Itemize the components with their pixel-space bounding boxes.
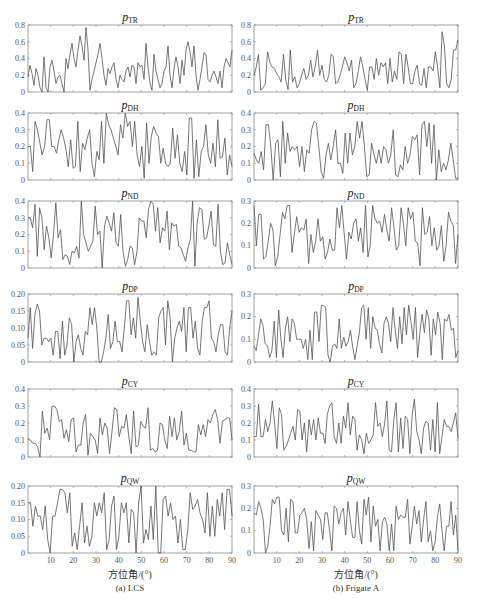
chart-panel-a-6: pQW00.050.100.150.20102030405060708090 bbox=[11, 471, 236, 565]
data-line bbox=[28, 486, 232, 553]
y-tick-label: 0 bbox=[247, 88, 251, 97]
x-tick-label: 90 bbox=[454, 556, 462, 565]
y-tick-label: 0.4 bbox=[241, 54, 251, 63]
plot-frame bbox=[254, 389, 458, 457]
x-tick-label: 30 bbox=[92, 556, 100, 565]
plot-frame bbox=[254, 201, 458, 268]
y-tick-label: 0.05 bbox=[11, 532, 25, 541]
x-tick-label: 60 bbox=[160, 556, 168, 565]
y-tick-label: 0.2 bbox=[241, 71, 251, 80]
data-line bbox=[254, 206, 458, 266]
y-tick-label: 0 bbox=[21, 358, 25, 367]
panel-title: pND bbox=[347, 186, 365, 201]
x-tick-label: 70 bbox=[183, 556, 191, 565]
y-tick-label: 0.4 bbox=[15, 54, 25, 63]
subfigure-caption: (a) LCS bbox=[116, 583, 145, 593]
y-tick-label: 0 bbox=[21, 453, 25, 462]
x-tick-label: 50 bbox=[363, 556, 371, 565]
chart-panel-a-4: pDP00.050.100.150.20 bbox=[11, 279, 232, 367]
y-tick-label: 0 bbox=[247, 453, 251, 462]
chart-panel-b-4: pDP00.10.20.3 bbox=[241, 279, 458, 367]
chart-panel-b-3: pND00.10.20.3 bbox=[241, 186, 458, 273]
plot-frame bbox=[28, 201, 232, 268]
panel-title: pTR bbox=[347, 10, 364, 25]
y-tick-label: 0.2 bbox=[241, 312, 251, 321]
x-axis-label: 方位角/(°) bbox=[108, 568, 151, 581]
y-tick-label: 0.1 bbox=[15, 247, 25, 256]
data-line bbox=[28, 28, 232, 93]
y-tick-label: 0.10 bbox=[11, 515, 25, 524]
y-tick-label: 0 bbox=[247, 264, 251, 273]
y-tick-label: 0.4 bbox=[241, 385, 251, 394]
y-tick-label: 0.4 bbox=[15, 197, 25, 206]
y-tick-label: 0.3 bbox=[241, 402, 251, 411]
y-tick-label: 0.1 bbox=[241, 526, 251, 535]
chart-canvas: pTR00.20.40.60.8pTR00.20.40.60.8pDH00.10… bbox=[0, 0, 480, 599]
y-tick-label: 0.2 bbox=[241, 142, 251, 151]
y-tick-label: 0.3 bbox=[241, 482, 251, 491]
chart-panel-a-2: pDH00.10.20.30.4 bbox=[15, 98, 232, 185]
y-tick-label: 0 bbox=[247, 176, 251, 185]
y-tick-label: 0 bbox=[247, 358, 251, 367]
chart-panel-b-6: pQW00.10.20.3102030405060708090 bbox=[241, 471, 462, 565]
y-tick-label: 0.3 bbox=[15, 402, 25, 411]
y-tick-label: 0.15 bbox=[11, 499, 25, 508]
data-line bbox=[28, 201, 232, 268]
y-tick-label: 0.20 bbox=[11, 290, 25, 299]
y-tick-label: 0.6 bbox=[241, 38, 251, 47]
y-tick-label: 0.2 bbox=[241, 219, 251, 228]
x-tick-label: 20 bbox=[69, 556, 77, 565]
y-tick-label: 0.1 bbox=[241, 241, 251, 250]
y-tick-label: 0.1 bbox=[241, 436, 251, 445]
y-tick-label: 0.05 bbox=[11, 341, 25, 350]
chart-panel-a-5: pCY00.10.20.30.4 bbox=[15, 374, 232, 462]
y-tick-label: 0.6 bbox=[15, 38, 25, 47]
x-tick-label: 10 bbox=[47, 556, 55, 565]
panel-title: pCY bbox=[347, 374, 365, 389]
x-axis-label: 方位角/(°) bbox=[334, 568, 377, 581]
y-tick-label: 0.3 bbox=[15, 126, 25, 135]
y-tick-label: 0.3 bbox=[241, 197, 251, 206]
y-tick-label: 0.1 bbox=[15, 436, 25, 445]
chart-panel-b-5: pCY00.10.20.30.4 bbox=[241, 374, 458, 462]
chart-panel-b-1: pTR00.20.40.60.8 bbox=[241, 10, 458, 97]
chart-panel-b-2: pDH00.10.20.30.4 bbox=[241, 98, 458, 185]
y-tick-label: 0.3 bbox=[241, 126, 251, 135]
y-tick-label: 0.1 bbox=[241, 159, 251, 168]
y-tick-label: 0.4 bbox=[241, 109, 251, 118]
y-tick-label: 0.2 bbox=[15, 230, 25, 239]
x-tick-label: 40 bbox=[115, 556, 123, 565]
panel-title: pDH bbox=[121, 98, 139, 113]
y-tick-label: 0.2 bbox=[15, 142, 25, 151]
x-tick-label: 70 bbox=[409, 556, 417, 565]
y-tick-label: 0 bbox=[21, 549, 25, 558]
y-tick-label: 0.1 bbox=[241, 335, 251, 344]
y-tick-label: 0.4 bbox=[15, 109, 25, 118]
panel-title: pCY bbox=[121, 374, 139, 389]
y-tick-label: 0.3 bbox=[15, 214, 25, 223]
x-tick-label: 20 bbox=[295, 556, 303, 565]
y-tick-label: 0.2 bbox=[15, 71, 25, 80]
subfigure-caption: (b) Frigate A bbox=[333, 583, 380, 593]
panel-title: pQW bbox=[346, 471, 366, 486]
y-tick-label: 0.2 bbox=[241, 504, 251, 513]
x-tick-label: 50 bbox=[137, 556, 145, 565]
y-tick-label: 0.3 bbox=[241, 290, 251, 299]
y-tick-label: 0.4 bbox=[15, 385, 25, 394]
panel-title: pDH bbox=[347, 98, 365, 113]
x-tick-label: 40 bbox=[341, 556, 349, 565]
y-tick-label: 0.2 bbox=[15, 419, 25, 428]
y-tick-label: 0 bbox=[21, 176, 25, 185]
y-tick-label: 0.8 bbox=[15, 21, 25, 30]
chart-panel-a-1: pTR00.20.40.60.8 bbox=[15, 10, 232, 97]
panel-title: pDP bbox=[347, 279, 364, 294]
data-line bbox=[28, 406, 232, 457]
panel-title: pTR bbox=[121, 10, 138, 25]
x-tick-label: 80 bbox=[205, 556, 213, 565]
data-line bbox=[28, 113, 232, 178]
x-tick-label: 10 bbox=[273, 556, 281, 565]
data-line bbox=[254, 32, 458, 91]
panel-title: pQW bbox=[120, 471, 140, 486]
chart-panel-a-3: pND00.10.20.30.4 bbox=[15, 186, 232, 273]
data-line bbox=[254, 399, 458, 453]
